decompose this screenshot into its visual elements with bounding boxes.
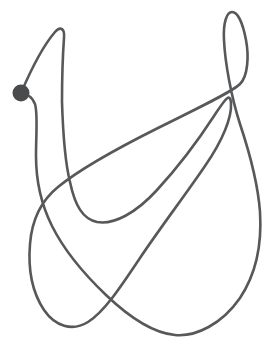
curve-figure-svg (0, 0, 276, 345)
start-point-dot (13, 85, 30, 102)
figure-canvas (0, 0, 276, 345)
